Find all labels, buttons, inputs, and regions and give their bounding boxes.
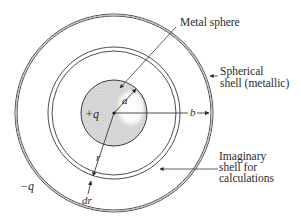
metal-sphere-leader — [120, 27, 176, 88]
label-radius-a: a — [122, 94, 128, 106]
label-charge-inner: +q — [85, 107, 99, 121]
label-spherical-shell-2: shell (metallic) — [220, 77, 289, 90]
diagram-canvas: Metal sphere Spherical shell (metallic) … — [0, 0, 301, 223]
label-dr: dr — [82, 194, 93, 206]
label-radius-b: b — [190, 106, 196, 118]
label-metal-sphere: Metal sphere — [180, 16, 240, 29]
dr-arrow — [89, 181, 91, 190]
center-point — [112, 111, 115, 114]
label-radius-r: r — [96, 151, 101, 163]
label-charge-outer: −q — [20, 179, 34, 193]
diagram-figure: Metal sphere Spherical shell (metallic) … — [0, 0, 301, 223]
label-imaginary-3: calculations — [219, 172, 274, 184]
